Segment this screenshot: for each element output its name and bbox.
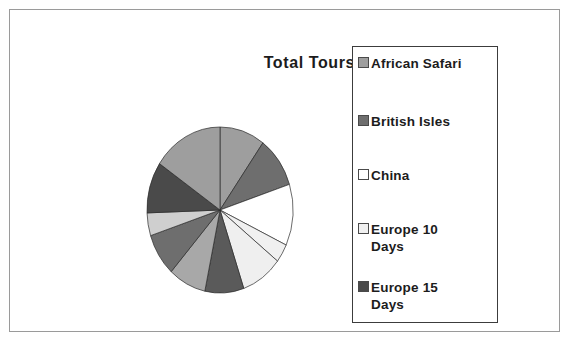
legend-item[interactable]: British Isles	[358, 113, 497, 130]
legend-item-label: British Isles	[371, 113, 450, 130]
pie-chart-svg	[140, 120, 305, 302]
page-title: Total Tours	[190, 54, 355, 72]
swatch-china	[358, 169, 369, 180]
chart-screenshot: Total Tours African SafariBritish IslesC…	[0, 0, 571, 343]
legend-item-label: China	[371, 167, 410, 184]
pie-slice-group	[147, 127, 293, 293]
swatch-british-isles	[358, 115, 369, 126]
legend-item-label: Europe 10 Days	[371, 221, 438, 255]
legend-item[interactable]: Europe 10 Days	[358, 221, 497, 255]
legend-item[interactable]: Europe 15 Days	[358, 279, 497, 313]
legend-item[interactable]: China	[358, 167, 497, 184]
pie-chart-plot-area[interactable]	[140, 120, 305, 302]
legend-item-label: Europe 15 Days	[371, 279, 438, 313]
chart-legend[interactable]: African SafariBritish IslesChinaEurope 1…	[352, 46, 498, 323]
chart-frame: Total Tours African SafariBritish IslesC…	[9, 9, 560, 332]
swatch-europe-10-days	[358, 223, 369, 234]
swatch-europe-15-days	[358, 281, 369, 292]
legend-item[interactable]: African Safari	[358, 55, 497, 72]
swatch-african-safari	[358, 57, 369, 68]
legend-item-label: African Safari	[371, 55, 462, 72]
